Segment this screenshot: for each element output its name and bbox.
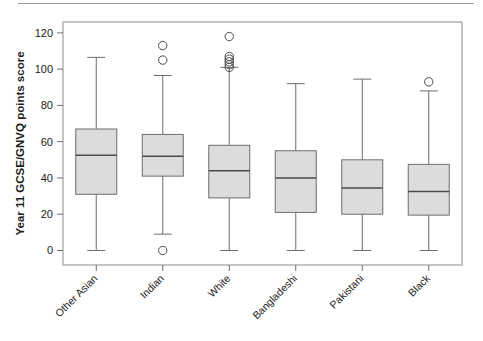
box-group: White [205,32,250,299]
y-axis-title: Year 11 GCSE/GNVQ points score [14,51,26,235]
x-axis-category-label: Bangladeshi [250,272,299,321]
boxplot-chart: 020406080100120Year 11 GCSE/GNVQ points … [0,0,483,341]
x-axis-category-label: Black [406,271,433,298]
figure-container: 020406080100120Year 11 GCSE/GNVQ points … [0,0,483,341]
outlier-point[interactable] [159,246,167,254]
outlier-point[interactable] [225,32,233,40]
outlier-point[interactable] [159,56,167,64]
x-axis-category-label: Other Asian [52,272,99,319]
plot-frame [63,22,462,265]
box-group: Other Asian [52,57,116,319]
y-axis-tick-label: 80 [41,99,53,111]
box-rect[interactable] [76,129,117,194]
box-group: Indian [137,41,183,300]
y-axis-tick-label: 20 [41,208,53,220]
box-rect[interactable] [209,145,250,198]
y-axis-tick-label: 60 [41,136,53,148]
outlier-point[interactable] [159,41,167,49]
box-rect[interactable] [342,160,383,214]
y-axis-tick-label: 100 [35,63,53,75]
y-axis-tick-label: 120 [35,27,53,39]
outlier-point[interactable] [425,78,433,86]
y-axis-tick-label: 0 [47,244,53,256]
box-rect[interactable] [408,164,449,215]
box-group: Bangladeshi [250,84,316,322]
y-axis-tick-label: 40 [41,172,53,184]
x-axis-category-label: Pakistani [327,272,366,311]
box-group: Pakistani [327,79,383,310]
box-rect[interactable] [275,151,316,213]
x-axis-category-label: White [205,272,233,300]
box-rect[interactable] [142,134,183,176]
x-axis-category-label: Indian [137,272,166,301]
